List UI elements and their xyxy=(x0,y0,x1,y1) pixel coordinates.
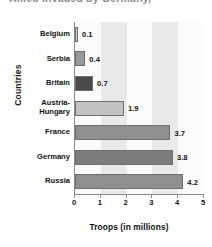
bar-chart-figure: Allied Invaded by Germany, Countries Bel… xyxy=(0,0,212,247)
x-axis-tick-label: 5 xyxy=(193,198,212,207)
bar-value-label: 0.7 xyxy=(97,79,108,88)
chart-title-clipped: Allied Invaded by Germany, xyxy=(0,0,212,7)
x-axis-tick-label: 4 xyxy=(167,198,187,207)
bar xyxy=(75,150,173,165)
x-axis-tick-labels: 012345 xyxy=(74,198,204,210)
category-label: Austria-Hungary xyxy=(6,99,70,116)
x-axis-title: Troops (in millions) xyxy=(54,222,204,232)
chart-title-text: Allied Invaded by Germany, xyxy=(9,0,151,4)
category-label: Serbia xyxy=(6,55,70,64)
x-axis-tick-label: 2 xyxy=(116,198,136,207)
plot-area: 0.10.40.71.93.73.84.2 xyxy=(74,22,204,195)
bar-value-label: 1.9 xyxy=(128,104,139,113)
bar xyxy=(75,51,85,66)
x-axis-tick-label: 3 xyxy=(141,198,161,207)
bar xyxy=(75,174,183,189)
category-label: Britain xyxy=(6,79,70,88)
bar-value-label: 0.1 xyxy=(82,30,93,39)
bar xyxy=(75,125,170,140)
bar-value-label: 4.2 xyxy=(187,178,198,187)
bar xyxy=(75,101,124,116)
category-label: Belgium xyxy=(6,30,70,39)
bar-value-label: 0.4 xyxy=(89,55,100,64)
bar-series: 0.10.40.71.93.73.84.2 xyxy=(75,22,204,194)
category-label: Russia xyxy=(6,177,70,186)
x-axis-tick-label: 1 xyxy=(90,198,110,207)
bar-value-label: 3.7 xyxy=(174,129,185,138)
bar xyxy=(75,76,93,91)
bar xyxy=(75,27,78,42)
category-label-list: BelgiumSerbiaBritainAustria-HungaryFranc… xyxy=(6,22,70,194)
category-label: France xyxy=(6,128,70,137)
category-label: Germany xyxy=(6,153,70,162)
x-axis-tick-label: 0 xyxy=(64,198,84,207)
bar-value-label: 3.8 xyxy=(177,153,188,162)
